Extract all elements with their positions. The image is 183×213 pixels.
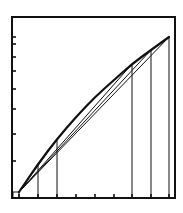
chord-lines (19, 37, 169, 192)
chord-line (19, 37, 169, 192)
diagram-canvas (0, 0, 183, 213)
chord-line (19, 50, 151, 192)
vertical-drop-lines (38, 37, 169, 198)
chord-line (19, 64, 132, 192)
